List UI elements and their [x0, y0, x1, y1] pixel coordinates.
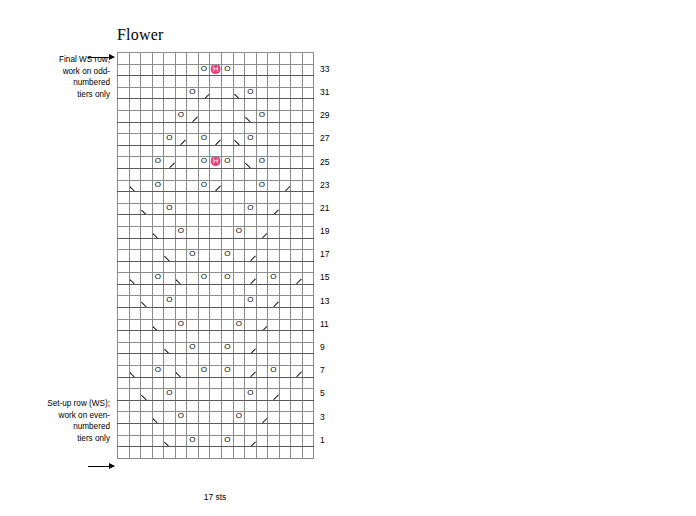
ssk-icon	[141, 296, 152, 307]
chart-cell	[222, 53, 234, 65]
chart-cell	[118, 168, 130, 180]
chart-cell	[210, 76, 222, 88]
chart-cell	[279, 87, 291, 99]
yarn-over-icon: O	[164, 296, 175, 307]
chart-cell	[279, 203, 291, 215]
chart-row-blank	[118, 284, 314, 296]
chart-cell	[198, 192, 210, 204]
chart-cell	[222, 319, 234, 331]
chart-cell	[279, 377, 291, 389]
chart-cell	[210, 342, 222, 354]
chart-cell	[129, 250, 141, 262]
chart-cell	[198, 87, 210, 99]
chart-cell	[291, 76, 303, 88]
chart-cell	[198, 435, 210, 447]
chart-cell	[129, 87, 141, 99]
chart-row: OO	[118, 389, 314, 401]
chart-cell	[279, 250, 291, 262]
chart-cell	[164, 354, 176, 366]
chart-cell	[187, 273, 199, 285]
k2tog-icon	[268, 296, 279, 307]
chart-cell	[187, 308, 199, 320]
chart-cell	[152, 64, 164, 76]
chart-cell	[118, 354, 130, 366]
yarn-over-icon: O	[245, 134, 256, 145]
chart-cell	[268, 76, 280, 88]
k2tog-icon	[245, 343, 256, 354]
chart-cell	[268, 424, 280, 436]
chart-cell	[187, 180, 199, 192]
yarn-over-icon: O	[199, 157, 210, 168]
chart-cell	[256, 203, 268, 215]
chart-cell	[279, 424, 291, 436]
chart-cell	[152, 192, 164, 204]
chart-cell	[187, 354, 199, 366]
chart-cell	[279, 261, 291, 273]
ssk-icon	[176, 366, 187, 377]
chart-cell	[198, 99, 210, 111]
chart-cell	[302, 238, 314, 250]
chart-cell: O	[164, 389, 176, 401]
chart-cell	[129, 331, 141, 343]
chart-cell	[175, 366, 187, 378]
chart-cell	[268, 331, 280, 343]
chart-cell	[187, 157, 199, 169]
chart-cell	[222, 76, 234, 88]
chart-cell: O	[152, 157, 164, 169]
chart-cell	[141, 412, 153, 424]
chart-cell	[118, 261, 130, 273]
chart-cell	[118, 319, 130, 331]
chart-cell	[245, 447, 257, 459]
chart-cell	[233, 424, 245, 436]
k2tog-icon	[245, 250, 256, 261]
chart-cell	[268, 168, 280, 180]
chart-cell	[164, 122, 176, 134]
chart-cell	[268, 157, 280, 169]
k2tog-icon	[245, 436, 256, 447]
k2tog-icon	[164, 157, 175, 168]
chart-cell	[118, 377, 130, 389]
chart-cell	[175, 53, 187, 65]
chart-cell	[256, 284, 268, 296]
chart-cell	[233, 168, 245, 180]
chart-cell	[118, 192, 130, 204]
chart-row-blank	[118, 145, 314, 157]
chart-cell	[152, 331, 164, 343]
yarn-over-icon: O	[199, 181, 210, 192]
chart-cell	[129, 122, 141, 134]
chart-cell	[141, 331, 153, 343]
chart-cell	[222, 377, 234, 389]
chart-cell	[141, 284, 153, 296]
row-number-label: 15	[320, 266, 329, 289]
chart-cell	[141, 122, 153, 134]
chart-cell	[291, 261, 303, 273]
chart-cell	[268, 122, 280, 134]
chart-cell: O	[222, 366, 234, 378]
chart-cell	[118, 53, 130, 65]
yarn-over-icon: O	[153, 273, 164, 284]
k2tog-icon	[245, 273, 256, 284]
chart-cell	[164, 400, 176, 412]
chart-cell: O	[175, 226, 187, 238]
yarn-over-icon: O	[153, 366, 164, 377]
chart-cell	[268, 145, 280, 157]
chart-cell	[164, 157, 176, 169]
chart-cell	[291, 354, 303, 366]
chart-cell	[175, 203, 187, 215]
chart-cell	[222, 122, 234, 134]
chart-cell	[291, 284, 303, 296]
chart-cell	[141, 389, 153, 401]
chart-cell	[175, 250, 187, 262]
chart-row: OO♓OO	[118, 157, 314, 169]
chart-cell	[222, 180, 234, 192]
chart-cell	[268, 99, 280, 111]
chart-cell	[164, 424, 176, 436]
chart-cell	[222, 261, 234, 273]
row-number-label: 25	[320, 151, 329, 174]
chart-cell	[233, 273, 245, 285]
chart-cell	[268, 342, 280, 354]
chart-panel-flower: Flower Final WS row;work on odd-numbered…	[0, 0, 348, 516]
chart-cell	[233, 76, 245, 88]
arrow-flower-top-icon	[88, 57, 114, 58]
chart-cell	[198, 319, 210, 331]
